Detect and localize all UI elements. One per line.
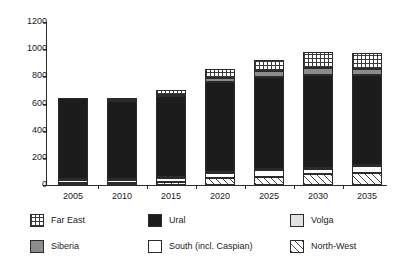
bar-segment-south-incl-caspian bbox=[58, 180, 88, 183]
chart-figure: 020040060080010001200 200520102015202020… bbox=[0, 0, 395, 265]
bar-segment-south-incl-caspian bbox=[205, 173, 235, 178]
bar-2030 bbox=[303, 51, 333, 185]
bar-segment-far-east bbox=[254, 60, 284, 71]
bar-2020 bbox=[205, 69, 235, 185]
bar-segment-ural bbox=[107, 101, 137, 179]
chart-legend: Far EastUralVolgaSiberiaSouth (incl. Cas… bbox=[30, 212, 382, 260]
legend-swatch-siberia-icon bbox=[30, 240, 44, 253]
bar-segment-south-incl-caspian bbox=[254, 170, 284, 177]
x-tick-label: 2030 bbox=[294, 191, 342, 201]
bar-segment-siberia bbox=[205, 78, 235, 82]
bar-segment-ural bbox=[156, 96, 186, 178]
bar-segment-north-west bbox=[352, 173, 382, 185]
x-tick-mark bbox=[98, 185, 99, 189]
legend-item-volga[interactable]: Volga bbox=[290, 212, 334, 228]
bar-segment-north-west bbox=[58, 183, 88, 185]
bar-2025 bbox=[254, 60, 284, 185]
y-tick: 0 bbox=[0, 185, 47, 186]
x-tick-mark bbox=[343, 185, 344, 189]
legend-label: Volga bbox=[311, 215, 334, 225]
bar-segment-far-east bbox=[156, 90, 186, 94]
bar-segment-siberia bbox=[254, 71, 284, 76]
x-tick-label: 2025 bbox=[245, 191, 293, 201]
bars-layer bbox=[0, 0, 395, 185]
legend-label: Far East bbox=[51, 215, 85, 225]
legend-swatch-volga-icon bbox=[290, 214, 304, 227]
bar-segment-ural bbox=[303, 75, 333, 168]
x-tick-label: 2035 bbox=[343, 191, 391, 201]
legend-label: Ural bbox=[169, 215, 186, 225]
legend-item-south-incl-caspian[interactable]: South (incl. Caspian) bbox=[148, 238, 253, 254]
legend-label: Siberia bbox=[51, 241, 79, 251]
bar-segment-far-east bbox=[205, 69, 235, 78]
bar-segment-far-east bbox=[303, 52, 333, 69]
bar-segment-far-east bbox=[107, 98, 137, 100]
bar-segment-siberia bbox=[303, 68, 333, 74]
bar-segment-north-west bbox=[107, 183, 137, 185]
bar-segment-ural bbox=[254, 77, 284, 169]
bar-segment-ural bbox=[205, 82, 235, 172]
bar-segment-north-west bbox=[156, 182, 186, 185]
x-tick-mark bbox=[245, 185, 246, 189]
bar-segment-south-incl-caspian bbox=[107, 180, 137, 183]
plot-area: 020040060080010001200 200520102015202020… bbox=[0, 0, 395, 200]
bar-segment-ural bbox=[58, 98, 88, 179]
bar-2010 bbox=[107, 98, 137, 185]
legend-swatch-south-incl-caspian-icon bbox=[148, 240, 162, 253]
x-tick-mark bbox=[196, 185, 197, 189]
bar-segment-south-incl-caspian bbox=[352, 166, 382, 173]
bar-2015 bbox=[156, 90, 186, 185]
legend-item-ural[interactable]: Ural bbox=[148, 212, 186, 228]
bar-segment-south-incl-caspian bbox=[303, 169, 333, 174]
legend-swatch-ural-icon bbox=[148, 214, 162, 227]
bar-2005 bbox=[58, 98, 88, 185]
legend-item-north-west[interactable]: North-West bbox=[290, 238, 356, 254]
legend-item-far-east[interactable]: Far East bbox=[30, 212, 85, 228]
bar-segment-far-east bbox=[352, 53, 382, 69]
x-tick-label: 2005 bbox=[49, 191, 97, 201]
legend-swatch-north-west-icon bbox=[290, 240, 304, 253]
bar-2035 bbox=[352, 53, 382, 185]
legend-label: South (incl. Caspian) bbox=[169, 241, 253, 251]
bar-segment-ural bbox=[352, 75, 382, 165]
x-tick-label: 2020 bbox=[196, 191, 244, 201]
bar-segment-north-west bbox=[303, 174, 333, 185]
x-tick-label: 2010 bbox=[98, 191, 146, 201]
legend-swatch-far-east-icon bbox=[30, 214, 44, 227]
legend-item-siberia[interactable]: Siberia bbox=[30, 238, 79, 254]
x-tick-mark bbox=[294, 185, 295, 189]
bar-segment-north-west bbox=[205, 178, 235, 185]
x-tick-label: 2015 bbox=[147, 191, 195, 201]
x-tick-mark bbox=[147, 185, 148, 189]
bar-segment-south-incl-caspian bbox=[156, 178, 186, 181]
bar-segment-north-west bbox=[254, 177, 284, 185]
bar-segment-siberia bbox=[352, 69, 382, 76]
legend-label: North-West bbox=[311, 241, 356, 251]
